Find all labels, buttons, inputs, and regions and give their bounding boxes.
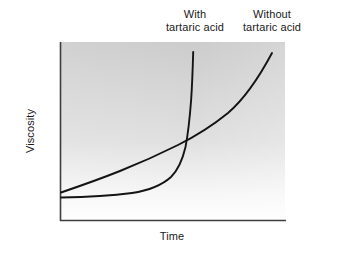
viscosity-time-chart: With tartaric acid Without tartaric acid (0, 0, 340, 263)
plot-area (0, 0, 340, 263)
x-axis-label: Time (160, 230, 184, 242)
plot-background-sheen (60, 42, 285, 221)
y-axis-label: Viscosity (24, 109, 36, 153)
